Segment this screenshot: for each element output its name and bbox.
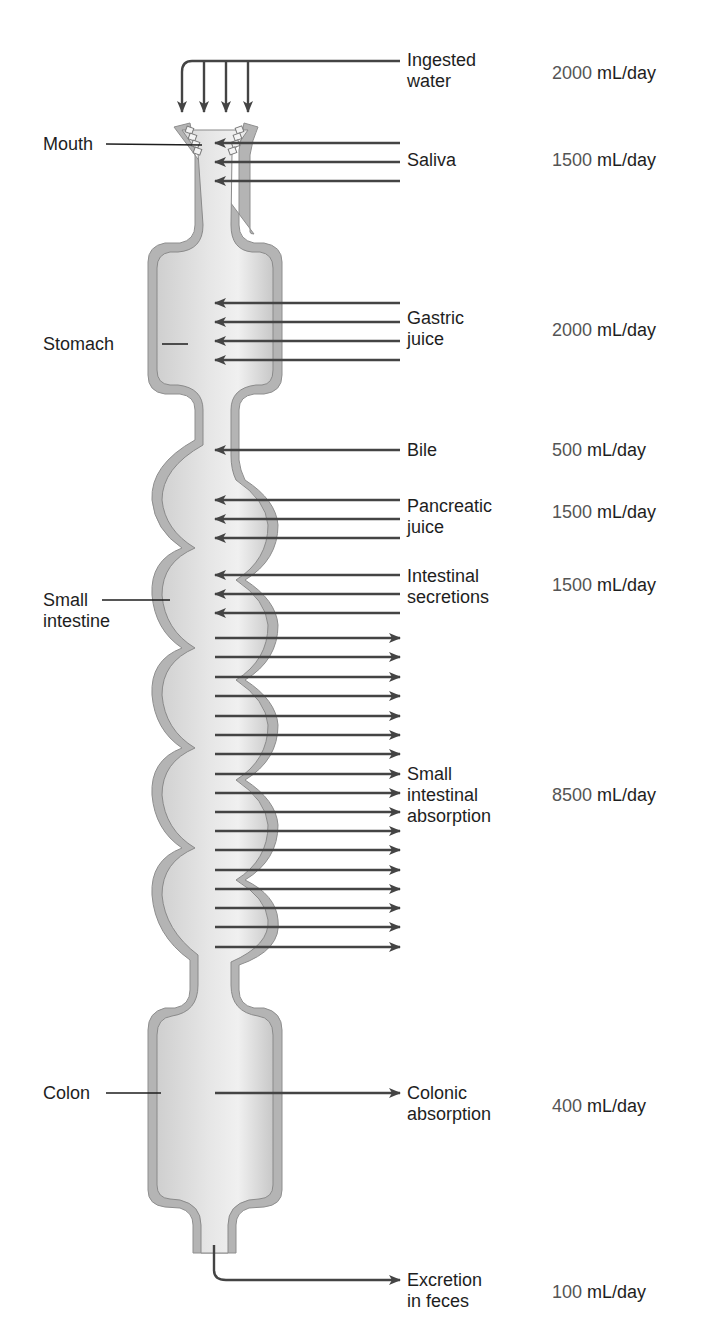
rate-intestinal-secretions: 1500 mL/day (552, 575, 656, 596)
rate-saliva: 1500 mL/day (552, 150, 656, 171)
flow-label-bile: Bile (407, 440, 437, 461)
ingested-water-arrow-icon (182, 61, 400, 112)
flow-label-excretion-in-feces: Excretion in feces (407, 1270, 482, 1312)
excretion-arrow-icon (214, 1245, 400, 1280)
organ-label-stomach: Stomach (43, 334, 114, 355)
flow-label-pancreatic-juice: Pancreatic juice (407, 496, 492, 538)
flow-label-intestinal-secretions: Intestinal secretions (407, 566, 489, 608)
organ-label-mouth: Mouth (43, 134, 93, 155)
rate-small-intestinal-absorption: 8500 mL/day (552, 785, 656, 806)
gi-tract-diagram (0, 0, 708, 1331)
rate-bile: 500 mL/day (552, 440, 646, 461)
rate-colonic-absorption: 400 mL/day (552, 1096, 646, 1117)
organ-label-small-intestine: Small intestine (43, 590, 110, 632)
rate-excretion-in-feces: 100 mL/day (552, 1282, 646, 1303)
flow-label-ingested-water: Ingested water (407, 50, 476, 92)
organ-label-colon: Colon (43, 1083, 90, 1104)
flow-label-gastric-juice: Gastric juice (407, 308, 464, 350)
flow-label-small-intestinal-absorption: Small intestinal absorption (407, 764, 491, 827)
flow-label-saliva: Saliva (407, 150, 456, 171)
rate-pancreatic-juice: 1500 mL/day (552, 502, 656, 523)
rate-ingested-water: 2000 mL/day (552, 63, 656, 84)
rate-gastric-juice: 2000 mL/day (552, 320, 656, 341)
flow-label-colonic-absorption: Colonic absorption (407, 1083, 491, 1125)
